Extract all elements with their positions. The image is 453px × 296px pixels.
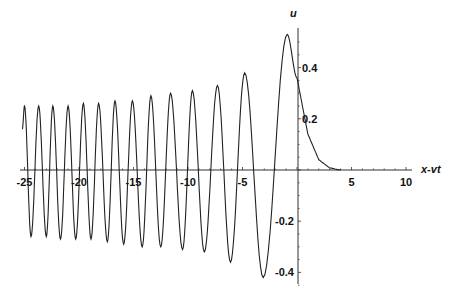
y-axis-label: u [290,7,297,19]
x-tick-label: 10 [400,176,412,188]
x-axis: -25-20-15-10-5510 x-vt [17,163,442,188]
x-axis-label: x-vt [420,163,442,175]
x-tick-label: -10 [180,176,196,188]
y-tick-label: -0.2 [275,215,294,227]
x-tick-label: -5 [238,176,248,188]
line-chart: -25-20-15-10-5510 x-vt 0.40.2-0.2-0.4 u [0,0,453,296]
x-tick-label: -25 [17,176,33,188]
y-tick-label: 0.4 [302,62,318,74]
x-tick-label: 5 [348,176,354,188]
x-axis-tick-labels: -25-20-15-10-5510 [17,176,413,188]
data-curve [22,34,340,277]
y-axis: 0.40.2-0.2-0.4 u [275,7,318,285]
y-tick-label: -0.4 [275,266,295,278]
